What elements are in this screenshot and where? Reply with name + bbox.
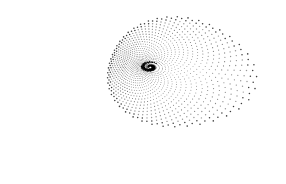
spiral-dots [107, 16, 258, 128]
dot-spiral-figure [0, 0, 286, 184]
